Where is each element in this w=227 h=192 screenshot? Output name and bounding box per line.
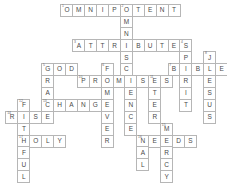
cell-letter: U [204, 100, 215, 111]
cell-letter: R [149, 112, 160, 123]
cell-letter: E [125, 124, 136, 135]
cell-letter: R [102, 136, 113, 147]
crossword-cell[interactable]: T [179, 99, 192, 112]
cell-letter: N [78, 100, 89, 111]
cell-letter: Y [54, 136, 65, 147]
cell-letter: S [137, 76, 148, 87]
cell-letter: Y [161, 171, 172, 182]
cell-letter: E [149, 100, 160, 111]
crossword-cell[interactable]: E [41, 111, 54, 124]
cell-letter: T [85, 40, 96, 51]
cell-letter: C [121, 64, 132, 75]
cell-letter: M [73, 5, 84, 16]
cell-letter: H [54, 100, 65, 111]
cell-letter: O [54, 64, 65, 75]
cell-letter: A [73, 40, 84, 51]
cell-letter: N [125, 100, 136, 111]
crossword-cell[interactable]: R [101, 135, 114, 148]
cell-letter: T [157, 40, 168, 51]
cell-letter: T [180, 100, 191, 111]
crossword-cell[interactable]: S [160, 75, 173, 88]
cell-letter: C [125, 112, 136, 123]
cell-letter: S [204, 88, 215, 99]
crossword-cell[interactable]: T [168, 4, 181, 17]
cell-letter: S [161, 76, 172, 87]
cell-letter: R [161, 147, 172, 158]
cell-letter: E [102, 124, 113, 135]
cell-letter: S [30, 112, 41, 123]
cell-letter: E [204, 76, 215, 87]
crossword-cell[interactable]: S [184, 135, 197, 148]
cell-letter: S [185, 136, 196, 147]
cell-letter: O [121, 5, 132, 16]
cell-letter: B [133, 40, 144, 51]
crossword-cell[interactable]: E [215, 63, 227, 76]
cell-letter: L [204, 64, 215, 75]
cell-letter: E [149, 136, 160, 147]
cell-letter: M [121, 17, 132, 28]
cell-letter: G [90, 100, 101, 111]
cell-letter: T [97, 40, 108, 51]
cell-letter: J [204, 52, 215, 63]
cell-letter: E [149, 76, 160, 87]
crossword-cell[interactable]: L [136, 158, 149, 171]
cell-letter: G [42, 64, 53, 75]
cell-letter: F [102, 64, 113, 75]
cell-letter: R [180, 76, 191, 87]
cell-letter: L [42, 136, 53, 147]
cell-letter: U [145, 40, 156, 51]
cell-letter: R [90, 76, 101, 87]
cell-letter: T [149, 88, 160, 99]
cell-letter: C [161, 159, 172, 170]
cell-letter: A [137, 147, 148, 158]
cell-letter: N [137, 136, 148, 147]
crossword-cell[interactable]: Y [160, 170, 173, 183]
cell-letter: I [180, 88, 191, 99]
cell-letter: I [18, 112, 29, 123]
cell-letter: B [192, 64, 203, 75]
cell-letter: A [66, 100, 77, 111]
cell-letter: D [173, 136, 184, 147]
cell-letter: C [42, 100, 53, 111]
cell-letter: O [30, 136, 41, 147]
crossword-grid: 1OMNIP2OTENTMN3ATTRIBUTE4SSP8J5GOD6FC7BI… [0, 0, 227, 192]
cell-letter: T [18, 124, 29, 135]
cell-letter: F [18, 147, 29, 158]
cell-letter: O [102, 76, 113, 87]
crossword-cell[interactable]: S [203, 111, 216, 124]
cell-letter: V [102, 112, 113, 123]
cell-letter: L [137, 159, 148, 170]
crossword-cell[interactable]: L [17, 170, 30, 183]
cell-letter: H [18, 136, 29, 147]
cell-letter: N [85, 5, 96, 16]
cell-letter: E [161, 136, 172, 147]
cell-letter: F [18, 100, 29, 111]
cell-letter: R [109, 40, 120, 51]
cell-letter: R [42, 76, 53, 87]
cell-letter: S [180, 40, 191, 51]
cell-letter: O [61, 5, 72, 16]
cell-letter: P [78, 76, 89, 87]
cell-letter: S [204, 112, 215, 123]
crossword-cell[interactable]: Y [53, 135, 66, 148]
cell-letter: N [157, 5, 168, 16]
cell-letter: I [97, 5, 108, 16]
cell-letter: E [169, 40, 180, 51]
cell-letter: E [42, 112, 53, 123]
cell-letter: N [121, 28, 132, 39]
cell-letter: T [169, 5, 180, 16]
cell-letter: A [42, 88, 53, 99]
cell-letter: S [121, 52, 132, 63]
cell-letter: R [6, 112, 17, 123]
cell-letter: I [180, 64, 191, 75]
cell-letter: M [114, 76, 125, 87]
cell-letter: P [109, 5, 120, 16]
cell-letter: L [18, 171, 29, 182]
cell-letter: B [169, 64, 180, 75]
cell-letter: T [133, 5, 144, 16]
cell-letter: I [125, 76, 136, 87]
cell-letter: P [180, 52, 191, 63]
cell-letter: M [102, 88, 113, 99]
cell-letter: E [216, 64, 227, 75]
cell-letter: E [102, 100, 113, 111]
